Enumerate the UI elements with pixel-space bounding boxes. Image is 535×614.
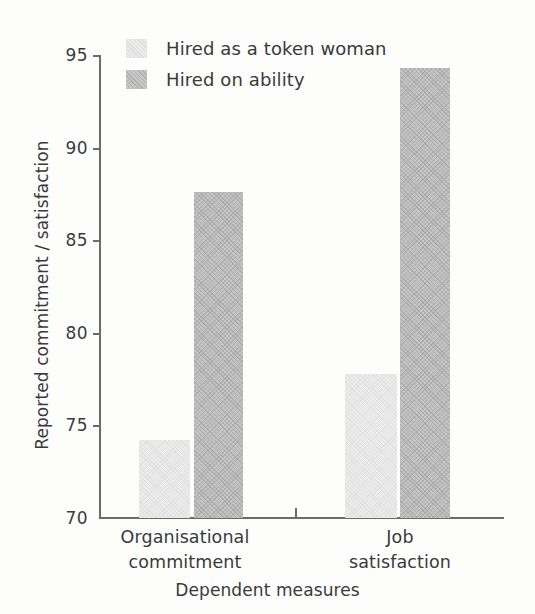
chart-figure: Hired as a token woman Hired on ability …: [0, 0, 535, 614]
x-category-label-line2: satisfaction: [300, 550, 500, 575]
x-category-label-organisational-commitment: Organisational commitment: [85, 525, 285, 575]
y-tick-label-container: 70: [38, 508, 88, 528]
x-category-label-job-satisfaction: Job satisfaction: [300, 525, 500, 575]
bar-organisational-commitment-ability: [194, 192, 243, 518]
y-tick-label-container: 95: [38, 45, 88, 65]
x-category-label-line1: Job: [386, 527, 413, 547]
x-axis-title: Dependent measures: [0, 580, 535, 600]
bar-job-satisfaction-ability: [400, 68, 450, 518]
bar-organisational-commitment-token: [139, 440, 190, 518]
y-tick-label: 70: [42, 508, 88, 528]
plot-area: [100, 55, 503, 518]
y-axis-title: Reported commitment / satisfaction: [32, 95, 52, 495]
bar-job-satisfaction-token: [345, 374, 397, 519]
x-category-label-line2: commitment: [85, 550, 285, 575]
x-category-label-line1: Organisational: [121, 527, 250, 547]
y-tick-label: 95: [42, 45, 88, 65]
